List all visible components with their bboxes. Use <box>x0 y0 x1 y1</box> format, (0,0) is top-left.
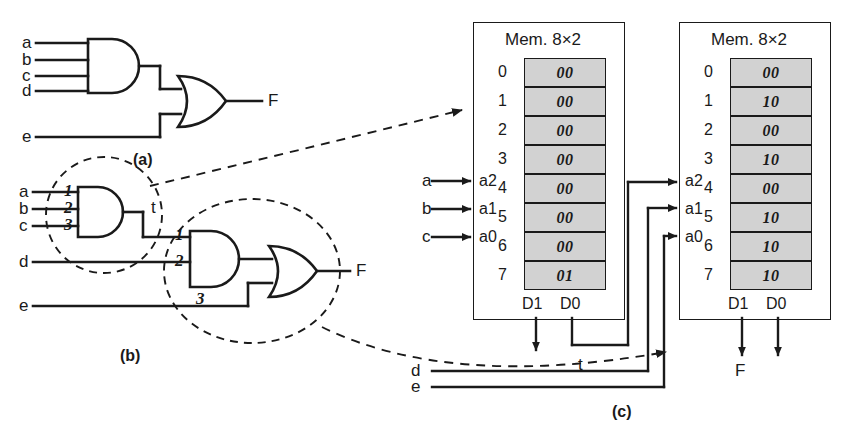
panel-a-input-a: a <box>22 34 31 51</box>
memory-cell: 00 <box>730 174 812 203</box>
cut-label-left-3: 3 <box>64 216 73 233</box>
memory1-label-D0: D0 <box>560 296 580 312</box>
memory-cell: 00 <box>524 145 606 174</box>
panel-b-and-gate-2 <box>190 231 239 287</box>
memory2-output-F: F <box>735 362 745 379</box>
memory-cell: 10 <box>730 145 812 174</box>
memory-address-label: 4 <box>704 180 713 196</box>
memory-cell: 10 <box>730 261 812 290</box>
memory-address-label: 5 <box>498 209 507 225</box>
memory-cell-word: 10 <box>763 238 780 256</box>
memory-cell-word: 00 <box>557 238 574 256</box>
memory-cell: 00 <box>730 58 812 87</box>
memory-cell-word: 10 <box>763 267 780 285</box>
caption-b: (b) <box>120 348 140 364</box>
memory1-source-a: a <box>422 172 431 189</box>
caption-a: (a) <box>133 152 153 168</box>
memory-cell-word: 00 <box>557 93 574 111</box>
memory-cell-word: 00 <box>557 209 574 227</box>
mapping-arrow-to-memory2 <box>322 327 666 366</box>
panel-b-input-d: d <box>19 253 28 270</box>
panel-b-input-c: c <box>19 217 28 234</box>
memory-cell: 10 <box>730 232 812 261</box>
panel-a-output-F: F <box>268 92 278 109</box>
cut-label-left-1: 1 <box>64 182 73 199</box>
cut-label-right-1: 1 <box>175 226 184 243</box>
memory-address-label: 2 <box>498 122 507 138</box>
memory2-output-wires <box>742 318 778 355</box>
panel-b-signal-t: t <box>151 199 156 216</box>
memory-address-label: 7 <box>498 267 507 283</box>
memory-address-label: 0 <box>704 64 713 80</box>
memory-cell: 00 <box>524 58 606 87</box>
memory-address-label: 6 <box>704 238 713 254</box>
memory-address-label: 1 <box>704 93 713 109</box>
panel-a-input-d: d <box>22 82 31 99</box>
panel-a-or-gate <box>178 76 226 127</box>
memory-cell: 00 <box>524 174 606 203</box>
memory-cell-word: 00 <box>763 64 780 82</box>
cut-label-right-2: 2 <box>175 252 184 269</box>
memory-cell-word: 01 <box>557 267 574 285</box>
memory-address-label: 0 <box>498 64 507 80</box>
memory2-title: Mem. 8×2 <box>711 31 787 48</box>
memory-address-label: 6 <box>498 238 507 254</box>
memory-cell-word: 10 <box>763 151 780 169</box>
panel-a-input-e: e <box>22 128 31 145</box>
panel-b-and-gate-1 <box>78 187 123 237</box>
memory-cell-word: 00 <box>763 180 780 198</box>
panel-a-circuit <box>36 39 262 137</box>
memory1-label-D1: D1 <box>522 296 542 312</box>
mapping-arrow-to-memory1 <box>150 110 462 186</box>
caption-c: (c) <box>612 404 632 420</box>
memory-cell: 10 <box>730 203 812 232</box>
memory1-source-c: c <box>422 228 431 245</box>
memory-address-label: 4 <box>498 180 507 196</box>
memory1-source-b: b <box>422 200 431 217</box>
panel-b-input-e: e <box>19 297 28 314</box>
memory-cell-word: 10 <box>763 209 780 227</box>
memory2-port-a2: a2 <box>685 173 703 189</box>
memory1-title: Mem. 8×2 <box>505 31 581 48</box>
memory-address-label: 3 <box>498 151 507 167</box>
memory-cell: 00 <box>524 116 606 145</box>
memory-address-label: 1 <box>498 93 507 109</box>
memory-cell: 00 <box>524 203 606 232</box>
memory1-port-a0: a0 <box>479 229 497 245</box>
panel-b-partition-boundaries <box>46 157 340 343</box>
panel-b-input-b: b <box>19 200 28 217</box>
memory-address-label: 2 <box>704 122 713 138</box>
panel-a-and-gate <box>88 39 139 93</box>
panel-b-or-gate <box>269 246 317 297</box>
memory-cell: 01 <box>524 261 606 290</box>
memory2-label-D0: D0 <box>766 296 786 312</box>
memory-cell-word: 00 <box>557 122 574 140</box>
memory-cell-word: 00 <box>557 151 574 169</box>
memory2-port-a0: a0 <box>685 229 703 245</box>
memory2-port-a1: a1 <box>685 201 703 217</box>
cut-label-left-2: 2 <box>64 199 73 216</box>
memory-cell-word: 10 <box>763 93 780 111</box>
memory1-output-t: t <box>578 356 583 373</box>
memory-cell: 00 <box>730 116 812 145</box>
memory-cell: 10 <box>730 87 812 116</box>
memory-cell: 00 <box>524 87 606 116</box>
memory2-label-D1: D1 <box>728 296 748 312</box>
memory-cell-word: 00 <box>557 180 574 198</box>
memory-cell: 00 <box>524 232 606 261</box>
panel-b-input-a: a <box>19 183 28 200</box>
figure-root: a b c d e F (a) a b c d e 1 2 3 t 1 2 3 … <box>0 0 850 446</box>
memory-address-label: 3 <box>704 151 713 167</box>
panel-b-output-F: F <box>356 262 366 279</box>
memory-cell-word: 00 <box>557 64 574 82</box>
memory1-address-wires <box>432 181 470 237</box>
panel-c-input-e: e <box>411 378 420 395</box>
cut-label-right-3: 3 <box>196 290 205 307</box>
memory-address-label: 5 <box>704 209 713 225</box>
memory-address-label: 7 <box>704 267 713 283</box>
memory-cell-word: 00 <box>763 122 780 140</box>
panel-b-circuit <box>33 187 350 306</box>
memory1-port-a2: a2 <box>479 173 497 189</box>
memory1-port-a1: a1 <box>479 201 497 217</box>
